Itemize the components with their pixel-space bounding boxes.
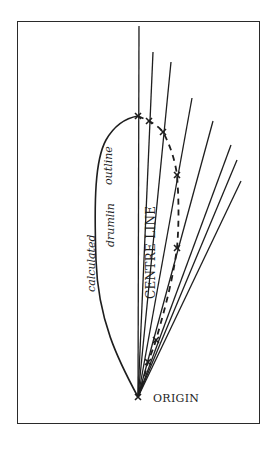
cross-icon — [160, 129, 166, 135]
centre-line-label: CENTRE LINE — [144, 206, 158, 299]
cross-icon — [146, 118, 152, 124]
origin-label: ORIGIN — [153, 392, 199, 405]
outline-label-drumlin: drumlin — [104, 203, 117, 247]
drumlin-diagram — [0, 0, 273, 452]
outline-label-calculated: calculated — [85, 234, 98, 292]
centre-line — [138, 26, 139, 397]
outline-label-outline: outline — [102, 146, 115, 185]
